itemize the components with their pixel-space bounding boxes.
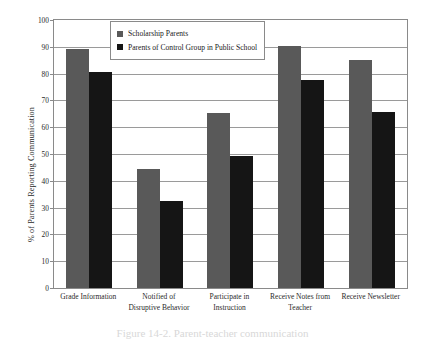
bar bbox=[207, 113, 230, 288]
y-tick-label: 40 bbox=[42, 176, 49, 185]
bar-group bbox=[54, 20, 125, 288]
x-tick-label-line: Receive Newsletter bbox=[327, 292, 415, 303]
figure-caption: Figure 14-2. Parent-teacher communicatio… bbox=[0, 327, 425, 339]
bar-group bbox=[266, 20, 337, 288]
bar bbox=[66, 49, 89, 288]
y-tick-label: 70 bbox=[42, 96, 49, 105]
bar-group bbox=[195, 20, 266, 288]
bar bbox=[278, 46, 301, 288]
y-axis-title: % of Parents Reporting Communication bbox=[27, 70, 36, 280]
bar bbox=[372, 112, 395, 288]
bar bbox=[137, 169, 160, 288]
y-tick-label: 80 bbox=[42, 69, 49, 78]
bar bbox=[349, 60, 372, 288]
chart-legend: Scholarship Parents Parents of Control G… bbox=[110, 21, 265, 60]
legend-label: Scholarship Parents bbox=[128, 29, 188, 38]
legend-swatch-icon bbox=[117, 31, 123, 37]
y-tick-label: 100 bbox=[38, 16, 49, 25]
y-tick-label: 60 bbox=[42, 123, 49, 132]
plot-area: 0102030405060708090100 bbox=[53, 19, 408, 289]
x-tick-label-line: Teacher bbox=[256, 303, 344, 314]
bar bbox=[160, 201, 183, 288]
legend-item: Parents of Control Group in Public Schoo… bbox=[117, 41, 257, 53]
bar bbox=[230, 156, 253, 288]
y-tick-label: 20 bbox=[42, 230, 49, 239]
bar-group bbox=[336, 20, 407, 288]
bar bbox=[89, 72, 112, 288]
legend-item: Scholarship Parents bbox=[117, 28, 257, 40]
y-tick-mark bbox=[50, 288, 54, 289]
legend-label: Parents of Control Group in Public Schoo… bbox=[128, 43, 257, 52]
legend-swatch-icon bbox=[117, 44, 123, 50]
y-tick-label: 50 bbox=[42, 150, 49, 159]
y-tick-label: 10 bbox=[42, 257, 49, 266]
bar-series-container bbox=[54, 20, 407, 288]
x-axis-tick-labels: Grade InformationNotified ofDisruptive B… bbox=[53, 292, 408, 328]
bar bbox=[301, 80, 324, 289]
y-tick-label: 30 bbox=[42, 203, 49, 212]
x-tick-label: Receive Newsletter bbox=[327, 292, 415, 303]
bar-group bbox=[125, 20, 196, 288]
y-tick-label: 90 bbox=[42, 42, 49, 51]
